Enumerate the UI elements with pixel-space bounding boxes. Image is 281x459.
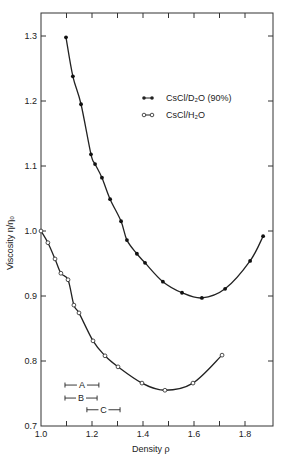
x-tick-label: 1.6 <box>188 429 201 439</box>
filled-circle-marker <box>223 287 227 291</box>
chart-canvas: 1.01.21.41.61.80.70.80.91.01.11.21.3 ABC… <box>0 0 281 459</box>
open-circle-icon <box>142 113 146 117</box>
y-axis-label: Viscosity η/η₀ <box>5 216 15 270</box>
filled-circle-marker <box>108 197 112 201</box>
plot-frame <box>41 13 273 426</box>
x-axis-label: Density ρ <box>132 444 170 454</box>
filled-circle-marker <box>200 296 204 300</box>
filled-circle-marker <box>119 219 123 223</box>
legend-item-h2o: CsCl/H₂O <box>142 110 205 120</box>
open-circle-icon <box>150 113 154 117</box>
y-tick-label: 0.9 <box>24 291 37 301</box>
open-circle-marker <box>103 354 107 358</box>
range-bar-a: A <box>65 380 99 390</box>
range-bar-b: B <box>65 393 97 403</box>
filled-circle-marker <box>64 35 68 39</box>
filled-circle-marker <box>93 162 97 166</box>
open-circle-marker <box>91 339 95 343</box>
range-bar-label: B <box>78 393 84 403</box>
range-bars: ABC <box>65 380 120 415</box>
open-circle-marker <box>66 278 70 282</box>
x-tick-label: 1.4 <box>137 429 150 439</box>
filled-circle-marker <box>248 259 252 263</box>
filled-circle-marker <box>143 261 147 265</box>
open-circle-marker <box>46 241 50 245</box>
legend-item-d2o: CsCl/D₂O (90%) <box>142 93 231 103</box>
filled-circle-icon <box>150 96 154 100</box>
open-circle-marker <box>39 229 43 233</box>
filled-circle-marker <box>79 102 83 106</box>
axis-ticks: 1.01.21.41.61.80.70.80.91.01.11.21.3 <box>24 13 273 439</box>
open-circle-marker <box>163 388 167 392</box>
open-circle-marker <box>77 311 81 315</box>
open-circle-marker <box>140 381 144 385</box>
y-tick-label: 1.3 <box>24 31 37 41</box>
viscosity-density-chart: 1.01.21.41.61.80.70.80.91.01.11.21.3 ABC… <box>0 0 281 459</box>
open-circle-marker <box>72 303 76 307</box>
y-tick-label: 1.0 <box>24 226 37 236</box>
filled-circle-marker <box>261 234 265 238</box>
legend-label-d2o: CsCl/D₂O (90%) <box>166 93 232 103</box>
y-tick-label: 0.8 <box>24 356 37 366</box>
open-circle-marker <box>116 365 120 369</box>
open-circle-marker <box>59 271 63 275</box>
range-bar-label: A <box>79 380 85 390</box>
open-circle-marker <box>220 353 224 357</box>
h2o-curve <box>41 231 222 390</box>
range-bar-label: C <box>100 405 107 415</box>
open-circle-marker <box>53 257 57 261</box>
filled-circle-marker <box>161 280 165 284</box>
y-tick-label: 0.7 <box>24 421 37 431</box>
filled-circle-marker <box>125 238 129 242</box>
y-tick-label: 1.2 <box>24 96 37 106</box>
filled-circle-marker <box>135 252 139 256</box>
fit-curves <box>41 37 263 390</box>
d2o-curve <box>66 37 263 298</box>
legend-label-h2o: CsCl/H₂O <box>166 110 205 120</box>
x-tick-label: 1.2 <box>86 429 99 439</box>
range-bar-c: C <box>87 405 120 415</box>
filled-circle-marker <box>71 74 75 78</box>
x-tick-label: 1.8 <box>239 429 252 439</box>
open-circle-marker <box>191 381 195 385</box>
data-points <box>39 35 265 392</box>
filled-circle-icon <box>142 96 146 100</box>
y-tick-label: 1.1 <box>24 161 37 171</box>
filled-circle-marker <box>89 152 93 156</box>
filled-circle-marker <box>180 291 184 295</box>
legend: CsCl/D₂O (90%) CsCl/H₂O <box>142 93 231 120</box>
filled-circle-marker <box>100 176 104 180</box>
